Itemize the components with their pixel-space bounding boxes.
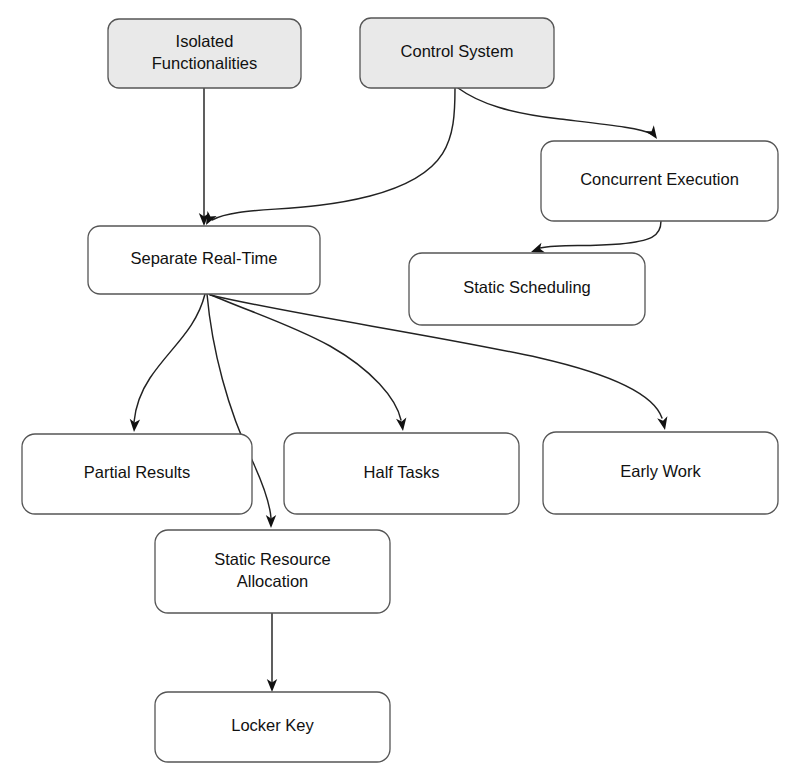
node-label-line: Concurrent Execution (580, 170, 739, 188)
edge-separate-real-time-to-partial-results (129, 294, 205, 432)
node-label: Static Scheduling (463, 278, 591, 296)
node-label: Concurrent Execution (580, 170, 739, 188)
arrow-head-icon (657, 416, 670, 431)
node-isolated-functionalities[interactable]: IsolatedFunctionalities (108, 19, 301, 88)
node-label-line: Functionalities (152, 54, 257, 72)
node-partial-results[interactable]: Partial Results (22, 434, 252, 514)
diagram-canvas: IsolatedFunctionalitiesControl SystemCon… (0, 0, 796, 778)
edge-line (212, 88, 455, 220)
nodes-layer: IsolatedFunctionalitiesControl SystemCon… (22, 18, 778, 762)
node-concurrent-execution[interactable]: Concurrent Execution (541, 141, 778, 221)
node-label: Locker Key (231, 716, 314, 734)
edge-line (134, 294, 205, 422)
node-label-line: Locker Key (231, 716, 314, 734)
node-label-line: Static Resource (214, 550, 330, 568)
node-label: Partial Results (84, 463, 190, 481)
flowchart-svg: IsolatedFunctionalitiesControl SystemCon… (0, 0, 796, 778)
node-separate-real-time[interactable]: Separate Real-Time (88, 226, 320, 294)
node-label-line: Allocation (237, 572, 309, 590)
node-label: Control System (401, 42, 514, 60)
node-label: Early Work (620, 462, 701, 480)
node-label: Separate Real-Time (130, 249, 277, 267)
node-locker-key[interactable]: Locker Key (155, 692, 390, 762)
edge-isolated-functionalities-to-separate-real-time (199, 88, 209, 226)
node-static-scheduling[interactable]: Static Scheduling (409, 253, 645, 325)
node-label-line: Static Scheduling (463, 278, 591, 296)
node-label-line: Half Tasks (364, 463, 440, 481)
edge-control-system-to-concurrent-execution (458, 88, 661, 142)
edge-line (209, 294, 401, 420)
node-half-tasks[interactable]: Half Tasks (284, 433, 519, 514)
edge-line (458, 88, 652, 134)
arrow-head-icon (396, 417, 408, 431)
arrow-head-icon (645, 125, 661, 142)
node-label: Half Tasks (364, 463, 440, 481)
edge-line (540, 221, 661, 248)
node-static-resource-allocation[interactable]: Static ResourceAllocation (155, 530, 390, 613)
edge-static-resource-allocation-to-locker-key (267, 613, 277, 692)
node-label-line: Partial Results (84, 463, 190, 481)
node-early-work[interactable]: Early Work (543, 432, 778, 514)
node-label-line: Control System (401, 42, 514, 60)
node-control-system[interactable]: Control System (360, 18, 554, 88)
edge-control-system-to-separate-real-time (201, 88, 455, 227)
node-label-line: Early Work (620, 462, 701, 480)
node-label-line: Isolated (176, 32, 234, 50)
node-label-line: Separate Real-Time (130, 249, 277, 267)
edge-concurrent-execution-to-static-scheduling (529, 221, 661, 257)
